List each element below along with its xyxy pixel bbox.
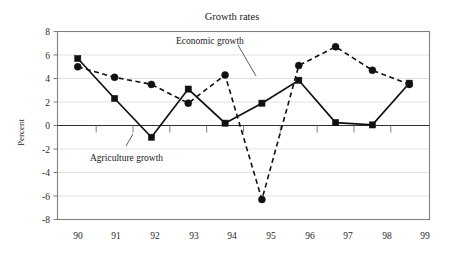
- x-tick-label: 91: [111, 231, 121, 241]
- y-tick-label: 4: [45, 74, 50, 84]
- economic-growth-line: [78, 47, 409, 200]
- x-tick-label: 98: [382, 231, 392, 241]
- y-axis-title: Percent: [16, 119, 26, 146]
- agriculture-growth-marker: [148, 134, 154, 140]
- economic-growth-leader-line: [238, 45, 256, 76]
- y-tick-label: -8: [42, 215, 50, 225]
- agriculture-growth-marker: [296, 77, 302, 83]
- series-layer: [74, 43, 412, 203]
- y-tick-labels: 8 6 4 2 0 -2 -4 -6 -8: [42, 27, 50, 225]
- agriculture-growth-marker: [111, 95, 117, 101]
- annotation-economic-growth: Economic growth: [176, 36, 244, 46]
- agriculture-growth-marker: [369, 122, 375, 128]
- economic-growth-marker: [369, 67, 376, 74]
- x-tick-label: 96: [305, 231, 315, 241]
- y-tick-label: 2: [45, 98, 50, 108]
- y-tick-label: 8: [45, 27, 50, 37]
- agriculture-growth-marker: [406, 80, 412, 86]
- x-tick-label: 97: [343, 231, 353, 241]
- x-tick-label: 99: [420, 231, 430, 241]
- x-tick-label: 94: [227, 231, 237, 241]
- agriculture-growth-marker: [75, 55, 81, 61]
- agriculture-growth-marker: [222, 120, 228, 126]
- y-tick-label: 0: [45, 121, 50, 131]
- economic-growth-marker: [222, 71, 229, 78]
- economic-growth-marker: [111, 74, 118, 81]
- agriculture-growth-marker: [332, 119, 338, 125]
- x-tick-label: 90: [73, 231, 83, 241]
- agriculture-growth-marker: [259, 100, 265, 106]
- agriculture-growth-leader-line: [126, 134, 133, 146]
- y-tick-label: -4: [42, 168, 50, 178]
- economic-growth-marker: [332, 43, 339, 50]
- x-tick-label: 93: [189, 231, 199, 241]
- x-tick-label: 95: [266, 231, 276, 241]
- x-tick-label: 92: [150, 231, 160, 241]
- economic-growth-marker: [295, 62, 302, 69]
- agriculture-growth-marker: [185, 86, 191, 92]
- chart-title: Growth rates: [205, 11, 260, 22]
- y-tick-label: -2: [42, 145, 50, 155]
- x-tick-labels: 90 91 92 93 94 95 96 97 98 99: [73, 231, 430, 241]
- chart-svg: Growth rates Percent 8 6 4 2 0 -2 -4 -6 …: [0, 0, 450, 256]
- economic-growth-marker: [185, 100, 192, 107]
- annotation-agriculture-growth: Agriculture growth: [90, 153, 163, 163]
- y-tick-label: -6: [42, 192, 50, 202]
- economic-growth-marker: [74, 63, 81, 70]
- economic-growth-marker: [258, 196, 265, 203]
- growth-rates-chart: Growth rates Percent 8 6 4 2 0 -2 -4 -6 …: [0, 0, 450, 256]
- y-tick-label: 6: [45, 51, 50, 61]
- y-tick-marks: [54, 32, 58, 220]
- economic-growth-marker: [148, 81, 155, 88]
